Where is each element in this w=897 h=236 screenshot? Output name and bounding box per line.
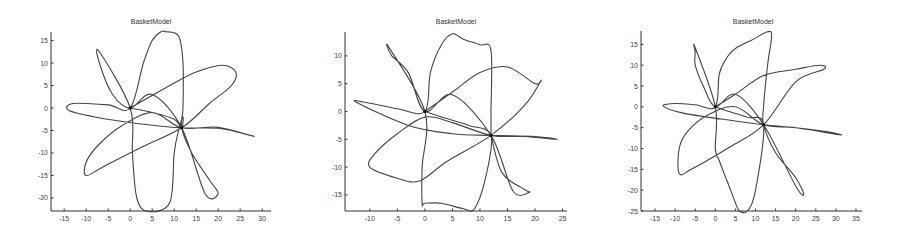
y-tick-label: 10	[40, 60, 48, 67]
x-tick-label: 0	[423, 215, 427, 222]
chart-title: BasketModel	[733, 18, 774, 25]
y-tick-label: 15	[630, 41, 638, 48]
chart-1: BasketModel -15-10-5051015202530151050-5…	[0, 0, 299, 236]
x-tick-label: 30	[832, 215, 840, 222]
y-tick-label: -5	[336, 136, 342, 143]
y-tick-label: 5	[44, 82, 48, 89]
chart-title: BasketModel	[131, 18, 172, 25]
x-tick-label: 20	[792, 215, 800, 222]
x-tick-label: 15	[772, 215, 780, 222]
y-tick-label: -20	[38, 194, 48, 201]
chart-3: BasketModel -15-10-505101520253035151050…	[598, 0, 897, 236]
x-tick-label: 5	[150, 215, 154, 222]
x-tick-label: 0	[128, 215, 132, 222]
marker-point	[180, 126, 183, 129]
x-tick-label: 20	[531, 215, 539, 222]
x-tick-label: 10	[170, 215, 178, 222]
y-tick-label: -10	[628, 145, 638, 152]
series-line-trajectory	[354, 34, 557, 212]
x-tick-label: 25	[236, 215, 244, 222]
chart-2: BasketModel -10-505101520251050-5-10-15	[299, 0, 598, 236]
marker-point	[423, 110, 426, 113]
y-tick-label: -25	[628, 208, 638, 215]
plot-area: -15-10-5051015202530151050-5-10-15-20	[38, 31, 271, 222]
y-tick-label: 10	[630, 62, 638, 69]
x-tick-label: 10	[752, 215, 760, 222]
series-line-trajectory	[663, 31, 841, 213]
y-tick-label: 0	[338, 108, 342, 115]
y-tick-label: 0	[634, 103, 638, 110]
y-tick-label: 5	[338, 80, 342, 87]
y-tick-label: -20	[628, 187, 638, 194]
plot-area: -15-10-505101520253035151050-5-10-15-20-…	[628, 31, 862, 222]
y-tick-label: -5	[632, 124, 638, 131]
marker-point	[762, 123, 765, 126]
x-tick-label: 10	[476, 215, 484, 222]
y-tick-label: 15	[40, 37, 48, 44]
x-tick-label: 15	[504, 215, 512, 222]
y-tick-label: -15	[628, 166, 638, 173]
marker-point	[129, 106, 132, 109]
y-tick-label: -15	[332, 191, 342, 198]
x-tick-label: 5	[733, 215, 737, 222]
x-tick-label: 25	[559, 215, 567, 222]
x-tick-label: -5	[394, 215, 400, 222]
x-tick-label: 35	[852, 215, 860, 222]
x-tick-label: -5	[692, 215, 698, 222]
x-tick-label: -10	[670, 215, 680, 222]
x-tick-label: 30	[258, 215, 266, 222]
series-line-trajectory	[67, 31, 255, 212]
x-tick-label: 5	[450, 215, 454, 222]
y-tick-label: 0	[44, 105, 48, 112]
marker-point	[489, 134, 492, 137]
chart-title: BasketModel	[436, 18, 477, 25]
plot-area: -10-505101520251050-5-10-15	[332, 32, 567, 222]
y-tick-label: -10	[332, 164, 342, 171]
x-tick-label: -10	[365, 215, 375, 222]
y-tick-label: 10	[334, 52, 342, 59]
y-tick-label: -10	[38, 149, 48, 156]
x-tick-label: 25	[812, 215, 820, 222]
y-tick-label: -15	[38, 172, 48, 179]
x-tick-label: 0	[713, 215, 717, 222]
x-tick-label: 15	[192, 215, 200, 222]
y-tick-label: -5	[42, 127, 48, 134]
x-tick-label: -5	[105, 215, 111, 222]
marker-point	[714, 105, 717, 108]
y-tick-label: 5	[634, 83, 638, 90]
x-tick-label: -15	[650, 215, 660, 222]
x-tick-label: 20	[214, 215, 222, 222]
x-tick-label: -10	[81, 215, 91, 222]
x-tick-label: -15	[59, 215, 69, 222]
